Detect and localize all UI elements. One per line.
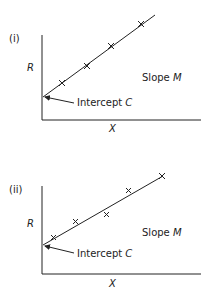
- panel-label: (i): [9, 33, 20, 44]
- panel-label: (ii): [9, 184, 22, 195]
- panel-i: (i) R X Slope M Intercept C: [9, 15, 201, 134]
- intercept-label: Intercept C: [77, 248, 132, 259]
- intercept-arrow: [45, 97, 74, 103]
- x-axis-label: X: [108, 278, 117, 289]
- slope-label: Slope M: [142, 72, 182, 83]
- intercept-arrow: [45, 246, 74, 253]
- y-axis-label: R: [27, 62, 34, 73]
- y-axis-label: R: [27, 218, 34, 229]
- panel-ii: (ii) R X Slope M Intercept C: [9, 173, 201, 289]
- intercept-label: Intercept C: [77, 97, 132, 108]
- slope-label: Slope M: [142, 227, 182, 238]
- diagram: (i) R X Slope M Intercept C (ii) R X Slo: [0, 0, 215, 291]
- x-axis-label: X: [108, 123, 117, 134]
